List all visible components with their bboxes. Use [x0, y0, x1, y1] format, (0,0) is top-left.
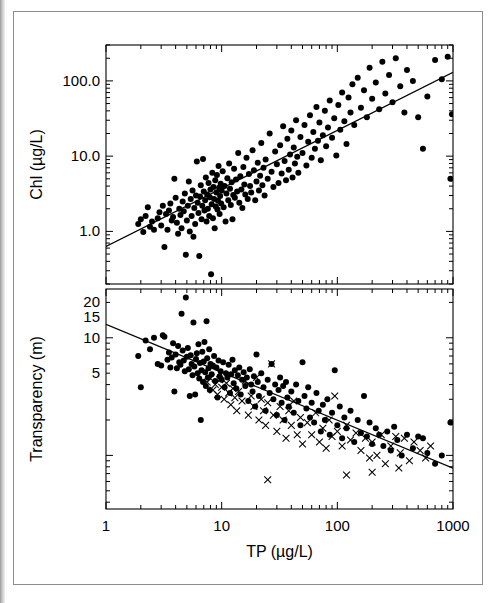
data-point-dot	[397, 83, 403, 89]
data-point-dot	[270, 396, 276, 402]
scatter-figure: 1.010.0100.051015201101001000Chl (µg/L)T…	[14, 12, 482, 584]
data-point-cross	[369, 469, 376, 476]
data-point-dot	[265, 377, 271, 383]
data-point-dot	[259, 182, 265, 188]
data-point-dot	[211, 353, 217, 359]
data-point-dot	[282, 158, 288, 164]
x-axis-title-tp: TP (µg/L)	[246, 543, 313, 560]
data-point-cross	[262, 422, 269, 429]
data-point-dot	[292, 160, 298, 166]
data-point-dot	[361, 393, 367, 399]
data-point-dot	[252, 197, 258, 203]
data-point-dot	[293, 382, 299, 388]
data-point-dot	[333, 153, 339, 159]
axis-labels-layer: 1.010.0100.051015201101001000Chl (µg/L)T…	[28, 72, 470, 560]
data-point-dot	[361, 87, 367, 93]
data-point-dot	[194, 350, 200, 356]
data-point-dot	[297, 134, 303, 140]
data-point-dot	[283, 379, 289, 385]
data-point-dot	[247, 183, 253, 189]
y-tick-label-transparency: 5	[92, 364, 100, 381]
data-point-dot	[293, 117, 299, 123]
data-point-dot	[355, 75, 361, 81]
data-point-dot	[309, 155, 315, 161]
data-point-dot	[310, 129, 316, 135]
x-tick-label-tp: 10	[213, 517, 230, 534]
data-point-dot	[329, 135, 335, 141]
series-0	[135, 295, 453, 467]
data-point-cross	[221, 396, 228, 403]
data-point-cross	[316, 439, 323, 446]
data-point-dot	[349, 81, 355, 87]
data-point-dot	[332, 367, 338, 373]
scan-edge-artifact	[0, 0, 5, 603]
data-point-cross	[245, 412, 252, 419]
data-point-dot	[190, 372, 196, 378]
data-point-dot	[161, 334, 167, 340]
data-point-dot	[277, 374, 283, 380]
data-point-dot	[322, 108, 328, 114]
data-point-dot	[288, 127, 294, 133]
data-point-dot	[156, 209, 162, 215]
data-point-dot	[327, 97, 333, 103]
data-point-dot	[171, 176, 177, 182]
data-point-dot	[313, 104, 319, 110]
data-point-dot	[226, 362, 232, 368]
data-point-dot	[339, 435, 345, 441]
data-point-dot	[189, 213, 195, 219]
data-point-dot	[186, 179, 192, 185]
y-axis-title-transparency: Transparency (m)	[28, 336, 45, 462]
x-tick-label-tp: 100	[325, 517, 350, 534]
data-point-dot	[311, 420, 317, 426]
data-point-dot	[358, 105, 364, 111]
data-point-dot	[393, 55, 399, 61]
data-point-dot	[199, 349, 205, 355]
data-point-dot	[212, 225, 218, 231]
data-point-dot	[241, 182, 247, 188]
data-point-dot	[277, 142, 283, 148]
data-point-dot	[195, 341, 201, 347]
data-point-dot	[236, 200, 242, 206]
data-point-dot	[183, 295, 189, 301]
data-point-dot	[201, 339, 207, 345]
data-point-dot	[272, 149, 278, 155]
data-point-dot	[228, 202, 234, 208]
data-point-dot	[211, 184, 217, 190]
data-point-dot	[318, 428, 324, 434]
data-point-dot	[312, 146, 318, 152]
data-point-dot	[256, 393, 262, 399]
data-point-dot	[283, 177, 289, 183]
data-point-cross	[358, 447, 365, 454]
data-point-dot	[185, 345, 191, 351]
data-point-dot	[191, 205, 197, 211]
data-point-dot	[198, 182, 204, 188]
data-point-dot	[220, 359, 226, 365]
data-point-dot	[255, 160, 261, 166]
data-point-cross	[233, 407, 240, 414]
data-point-dot	[269, 169, 275, 175]
data-point-dot	[180, 347, 186, 353]
data-point-dot	[143, 213, 149, 219]
data-point-dot	[280, 123, 286, 129]
data-point-dot	[217, 211, 223, 217]
data-point-dot	[206, 346, 212, 352]
data-point-dot	[331, 115, 337, 121]
data-point-dot	[291, 410, 297, 416]
data-point-dot	[432, 57, 438, 63]
data-point-dot	[379, 59, 385, 65]
data-point-dot	[191, 364, 197, 370]
data-point-dot	[187, 228, 193, 234]
data-point-dot	[445, 54, 451, 60]
data-point-dot	[147, 346, 153, 352]
data-point-cross	[304, 419, 311, 426]
data-point-dot	[184, 217, 190, 223]
data-point-dot	[195, 210, 201, 216]
data-point-dot	[307, 112, 313, 118]
data-point-dot	[258, 140, 264, 146]
data-point-dot	[206, 180, 212, 186]
data-point-dot	[216, 163, 222, 169]
data-point-dot	[223, 190, 229, 196]
data-point-dot	[284, 136, 290, 142]
regression-line	[106, 324, 453, 468]
figure-border-box: 1.010.0100.051015201101001000Chl (µg/L)T…	[13, 11, 483, 585]
